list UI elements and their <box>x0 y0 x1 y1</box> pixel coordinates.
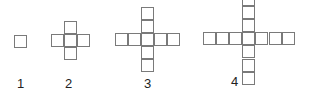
square-cell <box>167 33 180 46</box>
figure-label-3: 3 <box>144 77 151 90</box>
square-cell <box>77 34 90 47</box>
square-cell <box>14 35 27 48</box>
square-cell <box>229 32 242 45</box>
square-cell <box>128 33 141 46</box>
square-cell <box>242 59 255 72</box>
figure-label-2: 2 <box>65 77 72 90</box>
square-cell <box>64 21 77 34</box>
square-cell <box>242 19 255 32</box>
square-cell <box>203 32 216 45</box>
square-cell <box>282 32 295 45</box>
square-cell <box>242 32 255 45</box>
figure-label-1: 1 <box>17 77 24 90</box>
square-cell <box>216 32 229 45</box>
square-cell <box>255 32 268 45</box>
square-cell <box>154 33 167 46</box>
square-cell <box>141 59 154 72</box>
square-cell <box>141 20 154 33</box>
square-cell <box>51 34 64 47</box>
square-cell <box>141 46 154 59</box>
square-cell <box>64 47 77 60</box>
square-cell <box>242 45 255 58</box>
square-cell <box>141 33 154 46</box>
figure-label-4: 4 <box>231 75 238 88</box>
square-cell <box>115 33 128 46</box>
square-cell <box>141 7 154 20</box>
square-cell <box>242 6 255 19</box>
square-cell <box>242 72 255 85</box>
square-cell <box>269 32 282 45</box>
square-cell <box>64 34 77 47</box>
square-cell <box>242 0 255 6</box>
